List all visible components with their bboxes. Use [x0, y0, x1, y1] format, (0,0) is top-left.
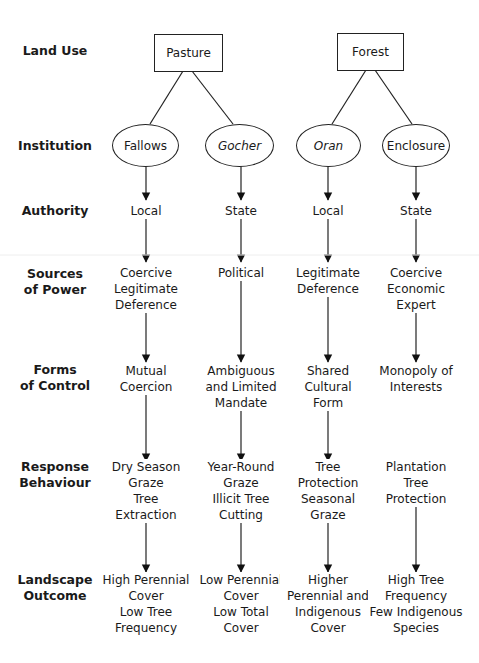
cell-line: Year-Round [193, 459, 289, 475]
cell-line: Low Perennial [193, 572, 289, 588]
link-pasture-gocher [192, 71, 233, 124]
forms-oran: Shared Cultural Form [280, 363, 376, 411]
outcome-gocher: Low Perennial Cover Low Total Cover [193, 572, 289, 636]
cell-line: Low Tree [98, 604, 194, 620]
cell-line: Coercive [368, 265, 464, 281]
row-label-forms-of-control: Forms of Control [0, 362, 110, 394]
row-label-line: Outcome [0, 588, 110, 604]
link-pasture-fallows [150, 71, 183, 124]
cell-line: Dry Season [98, 459, 194, 475]
cell-line: Coercive [98, 265, 194, 281]
cell-line: Perennial and [280, 588, 376, 604]
authority-enclosure: State [368, 203, 464, 219]
row-label-line: Landscape [0, 572, 110, 588]
land-use-pasture-box: Pasture [154, 34, 223, 72]
cell-line: Few Indigenous [368, 604, 464, 620]
forms-fallows: Mutual Coercion [98, 363, 194, 395]
connector-layer [0, 0, 479, 663]
response-gocher: Year-Round Graze Illicit Tree Cutting [193, 459, 289, 523]
row-label-text: Authority [22, 203, 89, 218]
outcome-fallows: High Perennial Cover Low Tree Frequency [98, 572, 194, 636]
cell-line: Graze [280, 507, 376, 523]
cell-line: Deference [98, 297, 194, 313]
row-label-line: Forms [0, 362, 110, 378]
sources-gocher: Political [193, 265, 289, 281]
cell-line: Graze [98, 475, 194, 491]
row-label-line: of Control [0, 378, 110, 394]
cell-line: Cultural [280, 379, 376, 395]
cell-line: Shared [280, 363, 376, 379]
cell-line: Plantation [368, 459, 464, 475]
cell-line: Mutual [98, 363, 194, 379]
row-label-text: Institution [18, 138, 92, 153]
row-label-line: Behaviour [0, 475, 110, 491]
row-label-response-behaviour: Response Behaviour [0, 459, 110, 491]
cell-line: Expert [368, 297, 464, 313]
land-use-forest-box: Forest [337, 33, 404, 71]
row-label-landscape-outcome: Landscape Outcome [0, 572, 110, 604]
land-use-label: Forest [352, 45, 389, 59]
link-forest-enclosure [375, 70, 412, 124]
cell-line: Cover [280, 620, 376, 636]
cell-line: Cover [193, 620, 289, 636]
row-label-line: of Power [0, 282, 110, 298]
cell-line: and Limited [193, 379, 289, 395]
row-label-line: Response [0, 459, 110, 475]
row-label-line: Sources [0, 266, 110, 282]
cell-line: High Tree [368, 572, 464, 588]
institution-label: Enclosure [387, 139, 445, 153]
institution-label: Oran [314, 139, 343, 153]
cell-line: Frequency [368, 588, 464, 604]
cell-line: Political [193, 265, 289, 281]
institution-enclosure: Enclosure [382, 124, 450, 167]
institution-fallows: Fallows [112, 124, 179, 167]
outcome-enclosure: High Tree Frequency Few Indigenous Speci… [368, 572, 464, 636]
cell-line: Form [280, 395, 376, 411]
cell-line: Seasonal [280, 491, 376, 507]
cell-line: Species [368, 620, 464, 636]
link-forest-oran [332, 70, 366, 124]
row-label-land-use: Land Use [0, 43, 110, 59]
sources-enclosure: Coercive Economic Expert [368, 265, 464, 313]
row-label-sources-of-power: Sources of Power [0, 266, 110, 298]
cell-line: Legitimate [280, 265, 376, 281]
authority-text: State [193, 203, 289, 219]
authority-oran: Local [280, 203, 376, 219]
forms-gocher: Ambiguous and Limited Mandate [193, 363, 289, 411]
response-fallows: Dry Season Graze Tree Extraction [98, 459, 194, 523]
forms-enclosure: Monopoly of Interests [368, 363, 464, 395]
cell-line: Low Total [193, 604, 289, 620]
response-enclosure: Plantation Tree Protection [368, 459, 464, 507]
row-label-authority: Authority [0, 203, 110, 219]
cell-line: Deference [280, 281, 376, 297]
cell-line: Monopoly of [368, 363, 464, 379]
cell-line: High Perennial [98, 572, 194, 588]
cell-line: Mandate [193, 395, 289, 411]
row-label-text: Land Use [23, 43, 88, 58]
institution-oran: Oran [296, 124, 361, 167]
response-oran: Tree Protection Seasonal Graze [280, 459, 376, 523]
cell-line: Indigenous [280, 604, 376, 620]
authority-gocher: State [193, 203, 289, 219]
authority-text: State [368, 203, 464, 219]
land-use-label: Pasture [166, 46, 211, 60]
cell-line: Higher [280, 572, 376, 588]
cell-line: Cover [193, 588, 289, 604]
sources-fallows: Coercive Legitimate Deference [98, 265, 194, 313]
authority-fallows: Local [98, 203, 194, 219]
cell-line: Economic [368, 281, 464, 297]
cell-line: Cutting [193, 507, 289, 523]
cell-line: Protection [280, 475, 376, 491]
institution-label: Gocher [218, 139, 261, 153]
outcome-oran: Higher Perennial and Indigenous Cover [280, 572, 376, 636]
institution-label: Fallows [124, 139, 167, 153]
cell-line: Tree [368, 475, 464, 491]
cell-line: Extraction [98, 507, 194, 523]
authority-text: Local [280, 203, 376, 219]
cell-line: Legitimate [98, 281, 194, 297]
cell-line: Ambiguous [193, 363, 289, 379]
cell-line: Coercion [98, 379, 194, 395]
cell-line: Interests [368, 379, 464, 395]
cell-line: Tree [280, 459, 376, 475]
cell-line: Frequency [98, 620, 194, 636]
